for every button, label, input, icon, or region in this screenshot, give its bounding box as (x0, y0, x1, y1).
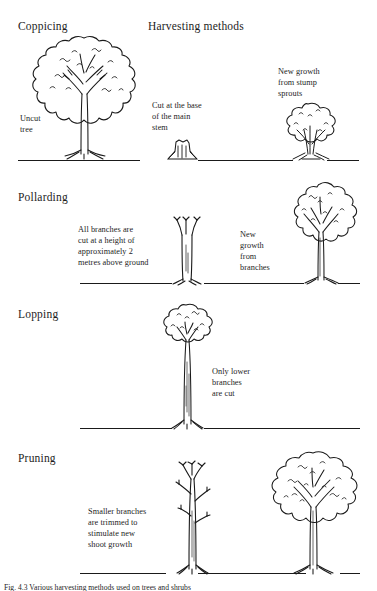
ground-line-pruning-right (340, 573, 360, 574)
ground-line-pollarding-mid (204, 283, 304, 284)
ground-line-pruning-left (80, 573, 166, 574)
ground-line-coppicing-mid (198, 160, 293, 161)
note-cut-at-base: Cut at the base of the main stem (152, 100, 202, 133)
panel-coppicing: Coppicing Harvesting methods (0, 0, 377, 175)
lopped-tree-illustration (152, 302, 224, 430)
panel-pollarding: Pollarding All branches are cut at a hei… (0, 175, 377, 300)
figure-heading: Harvesting methods (148, 20, 244, 34)
note-new-growth-stump: New growth from stump sprouts (278, 66, 320, 99)
stump-sprouts-illustration (272, 100, 350, 162)
ground-line-pruning-mid (198, 573, 306, 574)
ground-line-coppicing-right (327, 160, 359, 161)
figure-caption: Fig. 4.3 Various harvesting methods used… (4, 583, 374, 591)
pollard-regrowth-tree-illustration (278, 180, 364, 285)
ground-line-lopping-left (80, 428, 172, 429)
section-title-pollarding: Pollarding (18, 191, 68, 205)
uncut-tree-illustration (22, 32, 152, 160)
panel-pruning: Pruning Smaller branches are trimmed to … (0, 445, 377, 591)
ground-line-pollarding-right (338, 283, 360, 284)
ground-line-lopping-right (204, 428, 360, 429)
note-all-branches-cut: All branches are cut at a height of appr… (78, 224, 149, 268)
note-uncut-tree: Uncut tree (20, 113, 41, 135)
cut-stump-illustration (166, 138, 198, 162)
note-new-growth-branches: New growth from branches (240, 229, 270, 273)
note-smaller-branches: Smaller branches are trimmed to stimulat… (88, 506, 146, 550)
pruned-tree-illustration (164, 461, 224, 575)
section-title-pruning: Pruning (18, 452, 56, 466)
section-title-lopping: Lopping (18, 308, 58, 322)
ground-line-coppicing-left (18, 160, 140, 161)
pollarded-trunk-illustration (170, 215, 204, 285)
ground-line-pollarding-left (80, 283, 172, 284)
pruned-regrowth-tree-illustration (262, 449, 368, 575)
figure-page: Coppicing Harvesting methods (0, 0, 377, 591)
panel-lopping: Lopping Only lower branches are cut (0, 300, 377, 445)
